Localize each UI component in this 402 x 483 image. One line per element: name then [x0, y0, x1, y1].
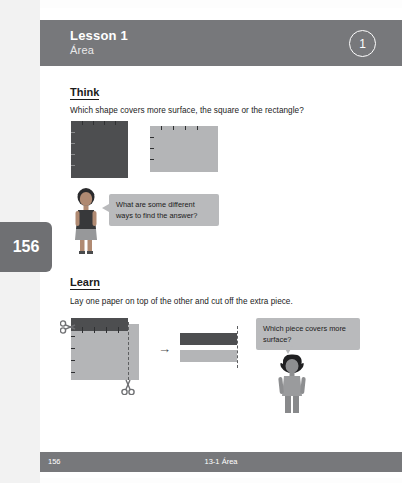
- learn-prompt: Lay one paper on top of the other and cu…: [70, 297, 293, 306]
- tick-mark: [71, 165, 75, 166]
- tick-mark: [93, 121, 94, 125]
- result-cut-line: [237, 326, 238, 368]
- tick-mark: [94, 327, 95, 333]
- dark-square-shape: [71, 121, 128, 178]
- footer-lesson-label: 13-1 Área: [40, 457, 402, 466]
- lesson-page: Lesson 1 Área 1 Think Which shape covers…: [40, 8, 402, 478]
- light-rectangle-shape: [150, 126, 218, 172]
- tick-mark: [71, 154, 75, 155]
- learn-dark-paper: [71, 318, 128, 331]
- result-dark-strip: [180, 333, 237, 345]
- result-light-strip: [180, 350, 237, 362]
- tick-mark: [104, 121, 105, 125]
- lesson-number-badge: 1: [349, 30, 376, 57]
- student-figure-boy: [272, 352, 312, 414]
- tick-mark: [82, 121, 83, 125]
- lesson-title: Lesson 1: [70, 28, 128, 43]
- tick-mark: [185, 126, 186, 130]
- tick-mark: [150, 148, 154, 149]
- scissors-icon: [60, 320, 76, 334]
- tick-mark: [150, 137, 154, 138]
- tick-mark: [161, 126, 162, 130]
- think-heading: Think: [70, 86, 99, 100]
- tick-mark: [173, 126, 174, 130]
- tick-mark: [118, 327, 119, 333]
- learn-heading: Learn: [70, 276, 100, 290]
- student-figure-girl: [66, 186, 106, 254]
- lesson-subtitle: Área: [70, 44, 94, 56]
- tick-mark: [115, 121, 116, 125]
- scissors-icon: [121, 379, 135, 395]
- tick-mark: [197, 126, 198, 130]
- arrow-icon: →: [158, 341, 171, 356]
- page-footer: 156 13-1 Área: [40, 452, 402, 472]
- think-speech-bubble: What are some different ways to find the…: [109, 194, 219, 226]
- worksheet-screen: Lesson 1 Área 1 Think Which shape covers…: [0, 0, 402, 483]
- page-number-tab: 156: [0, 222, 52, 272]
- bubble-tail-icon: [102, 204, 109, 212]
- tick-mark: [82, 327, 83, 333]
- cut-line: [128, 322, 129, 380]
- tick-mark: [71, 360, 75, 361]
- learn-speech-bubble: Which piece covers more surface?: [256, 318, 360, 350]
- tick-mark: [150, 159, 154, 160]
- tick-mark: [71, 132, 75, 133]
- lesson-header: Lesson 1 Área 1: [40, 20, 402, 66]
- tick-mark: [106, 327, 107, 333]
- tick-mark: [71, 348, 75, 349]
- tick-mark: [71, 336, 75, 337]
- tick-mark: [71, 143, 75, 144]
- tick-mark: [71, 372, 75, 373]
- think-prompt: Which shape covers more surface, the squ…: [70, 106, 304, 115]
